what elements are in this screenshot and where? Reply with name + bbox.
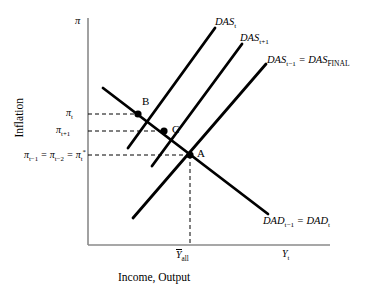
das-final-main2: DAS [308, 54, 327, 65]
point-marker-a [186, 151, 193, 158]
y-all-sub: all [182, 255, 189, 263]
point-label-c: C [172, 124, 179, 135]
das-final-sub: t−1 [286, 60, 296, 68]
y-axis-title: Inflation [14, 76, 26, 160]
curve-dad [103, 88, 268, 214]
pi-t1-sub: t+1 [61, 130, 70, 137]
x-tick-label-y-t: Yt [282, 249, 289, 262]
das-final-equals: = [296, 54, 308, 65]
curve-das-t-minus-1-final [133, 64, 266, 218]
curve-label-das-t: DASt [215, 17, 236, 30]
pi-star-p5: t−2 [55, 155, 64, 162]
curve-label-dad: DADt−1 = DADt [263, 216, 330, 229]
pi-star-p6: = [64, 149, 76, 160]
y-tick-label-pi-t: πt [66, 108, 73, 121]
pi-star-p9: * [83, 148, 86, 155]
das-final-main: DAS [267, 54, 286, 65]
dad-sub2: t [328, 221, 330, 229]
das-final-sub2: FINAL [327, 59, 349, 68]
dad-main: DAD [263, 215, 285, 226]
pi-star-p3: = [38, 149, 50, 160]
point-label-b: B [142, 96, 149, 107]
pi-axis-symbol: π [75, 16, 80, 27]
curve-label-das-t-plus-1: DASt+1 [240, 33, 269, 46]
point-marker-c [160, 127, 167, 134]
dad-sub: t−1 [285, 221, 295, 229]
pi-star-p8: t [81, 155, 83, 162]
point-marker-b [134, 110, 141, 117]
x-axis-title: Income, Output [118, 272, 190, 284]
y-tick-label-pi-star: πt−1 = πt−2 = πt* [0, 149, 86, 163]
das-t1-sub: t+1 [259, 38, 269, 46]
curve-label-das-final: DASt−1 = DASFINAL [267, 55, 350, 68]
x-tick-label-y-all: Yall [176, 249, 189, 263]
point-label-a: A [197, 148, 205, 159]
das-dad-diagram: Inflation Income, Output π DASt DASt+1 D… [0, 0, 390, 294]
dad-equals: = [294, 215, 306, 226]
y-t-sub: t [288, 254, 290, 261]
pi-star-p2: t−1 [29, 155, 38, 162]
das-t1-main: DAS [240, 32, 259, 43]
dad-main2: DAD [307, 215, 329, 226]
diagram-canvas [0, 0, 390, 294]
das-t-main: DAS [215, 16, 234, 27]
y-tick-label-pi-t-plus-1: πt+1 [56, 125, 70, 138]
pi-t-sub: t [71, 113, 73, 120]
das-t-sub: t [234, 22, 236, 30]
